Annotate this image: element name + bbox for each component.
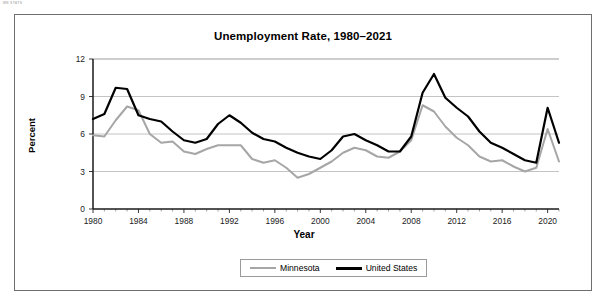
y-axis-title: Percent: [26, 106, 37, 166]
x-tick-label: 1984: [129, 216, 148, 226]
x-tick-label: 2000: [311, 216, 330, 226]
x-tick-label: 1996: [266, 216, 285, 226]
series-line-united-states: [93, 74, 559, 163]
series-lines-group: [93, 74, 559, 178]
line-chart-plot: 036912 198019841988199219962000200420082…: [15, 15, 593, 292]
y-tick-label: 3: [80, 167, 85, 177]
chart-legend: Minnesota United States: [240, 259, 427, 277]
x-axis-title: Year: [15, 229, 593, 240]
chart-frame: Unemployment Rate, 1980–2021 Percent 036…: [14, 14, 592, 291]
legend-item-united-states: United States: [336, 263, 418, 273]
plot-area-wrapper: Percent 036912 1980198419881992199620002…: [15, 15, 593, 292]
y-tick-label: 12: [76, 54, 86, 64]
y-tick-label: 0: [80, 204, 85, 214]
legend-swatch-minnesota-icon: [250, 267, 276, 269]
x-tick-label: 1988: [175, 216, 194, 226]
y-tick-label: 6: [80, 129, 85, 139]
y-tick-labels-group: 036912: [76, 54, 86, 214]
x-tick-label: 1992: [220, 216, 239, 226]
x-tick-label: 2012: [447, 216, 466, 226]
x-tick-label: 2008: [402, 216, 421, 226]
x-tick-label: 2016: [493, 216, 512, 226]
legend-swatch-united-states-icon: [336, 267, 362, 270]
x-tick-label: 2004: [356, 216, 375, 226]
x-tick-labels-group: 1980198419881992199620002004200820122016…: [84, 216, 558, 226]
faint-page-header: MN STATS: [3, 1, 22, 5]
legend-label-united-states: United States: [366, 263, 418, 273]
legend-item-minnesota: Minnesota: [250, 263, 320, 273]
y-tick-label: 9: [80, 92, 85, 102]
x-tick-label: 2020: [538, 216, 557, 226]
ticks-group: [89, 59, 559, 213]
legend-label-minnesota: Minnesota: [280, 263, 320, 273]
x-tick-label: 1980: [84, 216, 103, 226]
